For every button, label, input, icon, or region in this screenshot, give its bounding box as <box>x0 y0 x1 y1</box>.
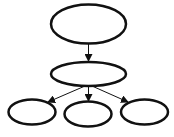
edge-middle-to-right-child <box>92 86 128 102</box>
node-left-child <box>9 100 56 125</box>
edge-middle-to-left-child <box>48 86 85 102</box>
node-right-child <box>121 100 168 125</box>
tree-diagram <box>0 0 174 137</box>
node-center-child <box>65 102 112 127</box>
node-middle <box>51 62 126 86</box>
node-root <box>51 5 126 44</box>
